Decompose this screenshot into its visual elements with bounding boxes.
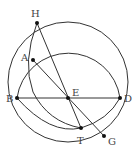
- label-b: B: [6, 93, 13, 104]
- label-e: E: [72, 87, 79, 98]
- arc-hat: [28, 23, 81, 128]
- point-b: [15, 96, 19, 100]
- label-g: G: [108, 136, 116, 147]
- segment-ht: [37, 23, 81, 128]
- point-h: [35, 21, 39, 25]
- point-a: [31, 58, 35, 62]
- label-d: D: [124, 93, 132, 104]
- point-d: [118, 96, 122, 100]
- label-t: T: [77, 135, 84, 146]
- label-h: H: [31, 8, 40, 19]
- point-e: [66, 96, 70, 100]
- label-a: A: [20, 52, 29, 63]
- point-t: [79, 126, 83, 130]
- point-g: [102, 134, 106, 138]
- geometry-diagram: H A B E D T G: [0, 0, 138, 157]
